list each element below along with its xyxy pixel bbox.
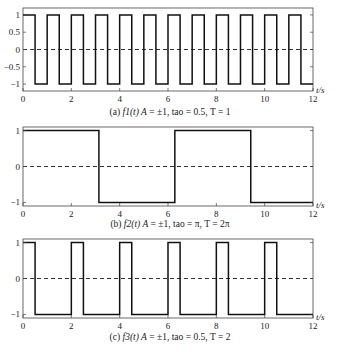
- x-tick-label: 0: [21, 321, 26, 331]
- y-tick-label: 1: [16, 126, 21, 136]
- x-tick-label: 12: [309, 209, 318, 219]
- x-tick-label: 6: [166, 321, 171, 331]
- x-tick-label: 12: [309, 321, 318, 331]
- y-tick-label: 0.5: [9, 27, 21, 37]
- plot-a: 10.50−0.5−1024681012 t/s (a) f1(t) A = ±…: [4, 8, 325, 118]
- x-tick-label: 6: [166, 94, 171, 104]
- x-tick-label: 4: [117, 94, 122, 104]
- y-tick-label: 0: [16, 45, 21, 55]
- y-tick-label: −0.5: [4, 62, 21, 72]
- plot-a-xlabel: t/s: [316, 85, 325, 95]
- x-tick-label: 6: [166, 209, 171, 219]
- x-tick-label: 8: [214, 94, 219, 104]
- x-tick-label: 10: [260, 94, 270, 104]
- x-tick-label: 10: [260, 321, 270, 331]
- y-tick-label: −1: [10, 197, 20, 207]
- x-tick-label: 2: [69, 94, 74, 104]
- plot-c-xlabel: t/s: [316, 312, 325, 322]
- x-tick-label: 4: [117, 321, 122, 331]
- figure: 10.50−0.5−1024681012 t/s (a) f1(t) A = ±…: [0, 0, 339, 356]
- plot-b-caption: (b) f2(t) A = ±1, tao = π, T = 2π: [110, 219, 229, 230]
- plot-a-caption: (a) f1(t) A = ±1, tao = 0.5, T = 1: [110, 107, 231, 118]
- y-tick-label: −1: [10, 79, 20, 89]
- plot-c: 10−1024681012 t/s (c) f3(t) A = ±1, tao …: [10, 238, 325, 343]
- x-tick-label: 0: [21, 94, 26, 104]
- y-tick-label: −1: [10, 309, 20, 319]
- x-tick-label: 4: [117, 209, 122, 219]
- y-tick-label: 0: [16, 162, 21, 172]
- plot-c-caption: (c) f3(t) A = ±1, tao = 0.5, T = 2: [110, 332, 231, 343]
- plot-b-xlabel: t/s: [316, 200, 325, 210]
- x-tick-label: 8: [214, 321, 219, 331]
- x-tick-label: 2: [69, 321, 74, 331]
- x-tick-label: 10: [260, 209, 270, 219]
- x-tick-label: 8: [214, 209, 219, 219]
- y-tick-label: 0: [16, 274, 21, 284]
- plot-b: 10−1024681012 t/s (b) f2(t) A = ±1, tao …: [10, 126, 325, 230]
- y-tick-label: 1: [16, 10, 21, 20]
- x-tick-label: 12: [309, 94, 318, 104]
- y-tick-label: 1: [16, 238, 21, 248]
- x-tick-label: 0: [21, 209, 26, 219]
- x-tick-label: 2: [69, 209, 74, 219]
